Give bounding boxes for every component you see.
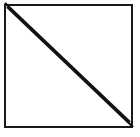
diagram-svg — [0, 0, 140, 137]
diagram-canvas — [0, 0, 140, 137]
